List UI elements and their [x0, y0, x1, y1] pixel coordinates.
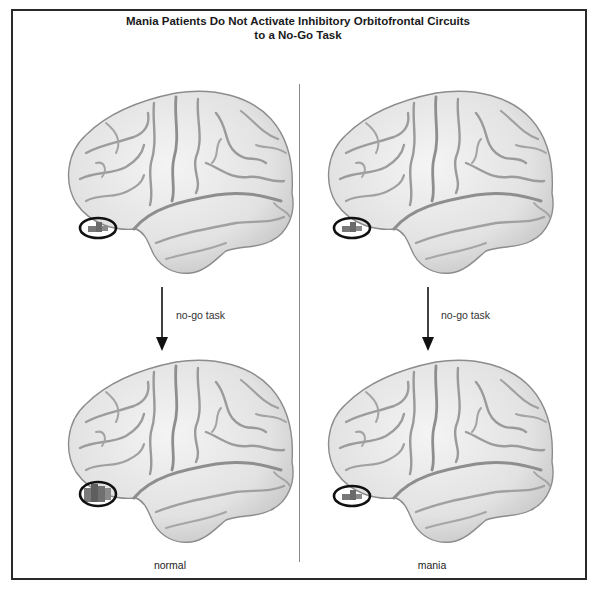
brain-mania-nogo — [316, 352, 556, 547]
arrow-down-icon — [155, 287, 169, 353]
brain-normal-nogo — [56, 352, 296, 547]
title-line-2: to a No-Go Task — [0, 28, 596, 42]
group-label-normal: normal — [120, 559, 220, 571]
panel-divider — [299, 84, 300, 562]
figure-title: Mania Patients Do Not Activate Inhibitor… — [0, 14, 596, 42]
task-label-mania: no-go task — [441, 309, 490, 321]
brain-normal-baseline — [56, 83, 296, 278]
brain-mania-baseline — [316, 83, 556, 278]
arrow-down-icon — [421, 287, 435, 353]
title-line-1: Mania Patients Do Not Activate Inhibitor… — [0, 14, 596, 28]
task-label-normal: no-go task — [176, 309, 225, 321]
group-label-mania: mania — [382, 559, 482, 571]
